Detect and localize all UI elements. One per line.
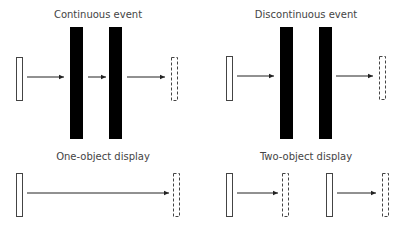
- occluder-right: [109, 27, 122, 139]
- end-object-dashed: [380, 57, 386, 100]
- start-object-2: [327, 174, 333, 217]
- start-object: [227, 57, 233, 101]
- continuous-event-panel: [17, 27, 178, 139]
- discontinuous-event-panel: [227, 27, 386, 139]
- one-object-panel: [17, 174, 180, 217]
- two-object-panel: [227, 174, 389, 217]
- start-object-1: [227, 174, 233, 217]
- start-object: [17, 58, 23, 101]
- occluder-right: [319, 27, 332, 139]
- end-object-dashed-2: [383, 174, 389, 217]
- end-object-dashed: [172, 58, 178, 101]
- end-object-dashed-1: [283, 174, 289, 217]
- start-object: [17, 174, 23, 217]
- diagram-canvas: [0, 0, 404, 231]
- occluder-left: [280, 27, 293, 139]
- end-object-dashed: [174, 174, 180, 217]
- occluder-left: [70, 27, 83, 139]
